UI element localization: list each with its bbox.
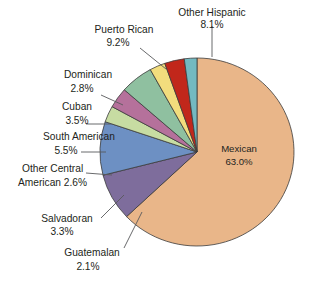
slice-label-guatemalan-value: 2.1% [76, 261, 99, 272]
slice-label-dominican-value: 2.8% [70, 83, 93, 94]
slice-label-cuban-value: 3.5% [65, 115, 88, 126]
slice-label-dominican-name: Dominican [64, 69, 112, 80]
pie-chart-svg: Other Hispanic 8.1% Puerto Rican 9.2% Do… [0, 0, 314, 285]
slice-label-mexican-name: Mexican [221, 143, 257, 154]
slice-label-cuban-name: Cuban [62, 101, 92, 112]
slice-label-guatemalan-name: Guatemalan [64, 247, 120, 258]
slice-label-other-hispanic-value: 8.1% [200, 19, 223, 30]
slice-label-puerto-rican-value: 9.2% [106, 37, 129, 48]
pie-chart-figure: Other Hispanic 8.1% Puerto Rican 9.2% Do… [0, 0, 314, 285]
slice-label-other-central-american-line1: Other Central [22, 163, 83, 174]
slice-label-puerto-rican-name: Puerto Rican [95, 24, 154, 35]
pie-slices-group [100, 58, 294, 246]
slice-label-salvadoran-value: 3.3% [50, 226, 73, 237]
slice-label-south-american-value: 5.5% [54, 145, 77, 156]
leader-line-puerto-rican [140, 48, 166, 69]
slice-label-other-hispanic-name: Other Hispanic [178, 7, 245, 18]
slice-label-other-central-american-line2: American 2.6% [18, 177, 87, 188]
slice-label-salvadoran-name: Salvadoran [41, 213, 93, 224]
slice-label-mexican-value: 63.0% [225, 156, 253, 167]
slice-label-south-american-name: South American [43, 131, 115, 142]
